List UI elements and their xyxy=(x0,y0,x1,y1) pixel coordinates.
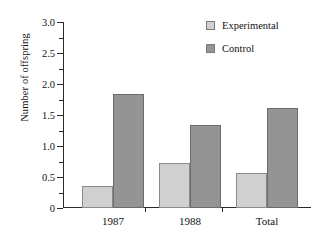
bar-experimental-total xyxy=(236,173,267,208)
y-tick-label-0-5: 0.5 xyxy=(42,172,55,183)
legend-item-experimental: Experimental xyxy=(206,17,279,34)
y-minor-tick-2-25 xyxy=(59,69,63,70)
bar-control-1987 xyxy=(113,94,144,208)
y-tick-2-0 xyxy=(57,84,63,85)
legend-swatch-experimental-icon xyxy=(206,21,215,30)
y-tick-label-1-0: 1.0 xyxy=(42,141,55,152)
y-tick-1-0 xyxy=(57,146,63,147)
y-tick-2-5 xyxy=(57,53,63,54)
x-separator-tick-2 xyxy=(222,208,223,212)
legend-label-control: Control xyxy=(222,43,254,54)
bar-chart-figure: Number of offspring 3.0 2.5 2.0 1.5 1.0 … xyxy=(0,0,323,246)
y-minor-tick-1-25 xyxy=(59,131,63,132)
legend-item-control: Control xyxy=(206,40,279,57)
x-tick-label-total: Total xyxy=(256,215,278,227)
y-tick-label-2-0: 2.0 xyxy=(42,79,55,90)
y-tick-label-2-5: 2.5 xyxy=(42,48,55,59)
legend-swatch-control-icon xyxy=(206,44,215,53)
y-tick-label-1-5: 1.5 xyxy=(42,110,55,121)
y-minor-tick-2-75 xyxy=(59,38,63,39)
y-axis-title: Number of offspring xyxy=(19,8,30,148)
legend: Experimental Control xyxy=(206,17,279,63)
y-tick-0-5 xyxy=(57,177,63,178)
y-tick-1-5 xyxy=(57,115,63,116)
bar-experimental-1987 xyxy=(82,186,113,208)
y-minor-tick-0-75 xyxy=(59,162,63,163)
x-separator-tick-1 xyxy=(145,208,146,212)
y-tick-label-3-0: 3.0 xyxy=(42,17,55,28)
bar-control-1988 xyxy=(190,125,221,208)
x-tick-label-1987: 1987 xyxy=(102,215,124,227)
y-minor-tick-1-75 xyxy=(59,100,63,101)
y-tick-3-0 xyxy=(57,22,63,23)
x-tick-label-1988: 1988 xyxy=(179,215,201,227)
y-axis-line xyxy=(63,22,64,208)
y-tick-0 xyxy=(57,208,63,209)
y-minor-tick-0-25 xyxy=(59,193,63,194)
y-tick-label-0: 0 xyxy=(50,203,55,214)
bar-control-total xyxy=(267,108,298,208)
legend-label-experimental: Experimental xyxy=(222,20,279,31)
bar-experimental-1988 xyxy=(159,163,190,208)
